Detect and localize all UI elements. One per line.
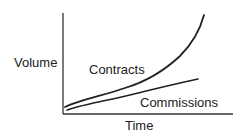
contracts-label: Contracts	[89, 62, 145, 77]
line-chart: Volume Time Contracts Commissions	[0, 0, 244, 134]
y-axis-label: Volume	[14, 55, 57, 70]
x-axis-label: Time	[125, 118, 153, 133]
commissions-label: Commissions	[140, 95, 219, 110]
